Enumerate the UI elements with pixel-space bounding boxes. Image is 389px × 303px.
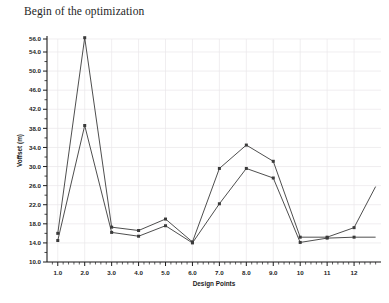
x-axis-tick-label: 5.0 (161, 269, 170, 276)
y-axis-title: Voffset (m) (16, 134, 24, 167)
x-axis-tick-label: 6.0 (188, 269, 197, 276)
x-axis-tick-label: 11 (324, 269, 331, 276)
y-axis-tick-label: 50.0 (29, 67, 42, 74)
y-axis-tick-label: 14.0 (29, 239, 42, 246)
x-axis-tick-label: 12 (351, 269, 358, 276)
y-axis-tick-label: 46.0 (29, 86, 42, 93)
x-axis-tick-label: 7.0 (215, 269, 224, 276)
y-axis-tick-label: 54.0 (29, 48, 42, 55)
y-axis-tick-label: 26.0 (29, 182, 42, 189)
data-point-marker (137, 235, 140, 238)
axes-layer (43, 36, 381, 266)
y-axis-tick-label: 30.0 (29, 163, 42, 170)
y-axis-tick-label: 38.0 (29, 125, 42, 132)
y-axis-tick-label: 42.0 (29, 105, 42, 112)
line-chart-plot: 10.014.018.022.026.030.034.038.042.046.0… (0, 0, 389, 303)
y-axis-tick-label: 22.0 (29, 201, 42, 208)
data-point-marker (164, 224, 167, 227)
x-axis-tick-label: 8.0 (242, 269, 251, 276)
grid-layer (47, 39, 381, 262)
data-point-marker (218, 202, 221, 205)
x-axis-tick-label: 10 (297, 269, 304, 276)
y-axis-tick-label: 10.0 (29, 258, 42, 265)
data-point-marker (245, 144, 248, 147)
data-point-marker (56, 239, 59, 242)
data-point-marker (191, 241, 194, 244)
x-axis-tick-label: 4.0 (134, 269, 143, 276)
data-point-marker (272, 160, 275, 163)
y-axis-tick-label: 56.0 (29, 35, 42, 42)
series-line (58, 38, 376, 242)
data-point-marker (272, 177, 275, 180)
data-point-marker (164, 218, 167, 221)
x-axis-tick-label: 1.0 (53, 269, 62, 276)
x-axis-title: Design Points (193, 280, 236, 288)
data-point-marker (83, 36, 86, 39)
data-point-marker (245, 167, 248, 170)
y-axis-tick-label: 34.0 (29, 144, 42, 151)
data-point-marker (218, 167, 221, 170)
data-point-marker (110, 231, 113, 234)
data-point-marker (353, 226, 356, 229)
data-point-marker (353, 236, 356, 239)
series-layer (56, 36, 375, 244)
x-axis-tick-label: 3.0 (107, 269, 116, 276)
data-point-marker (83, 124, 86, 127)
y-axis-tick-label: 18.0 (29, 220, 42, 227)
chart-figure: Begin of the optimization 10.014.018.022… (0, 0, 389, 303)
data-point-marker (137, 229, 140, 232)
data-point-marker (326, 237, 329, 240)
x-axis-tick-label: 9.0 (269, 269, 278, 276)
data-point-marker (299, 241, 302, 244)
data-point-marker (299, 236, 302, 239)
x-axis-tick-label: 2.0 (80, 269, 89, 276)
